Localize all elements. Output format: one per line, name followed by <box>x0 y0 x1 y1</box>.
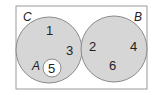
set-c-label: C <box>23 10 32 24</box>
element-1: 1 <box>46 23 53 38</box>
element-3: 3 <box>66 43 73 58</box>
element-4: 4 <box>130 39 137 54</box>
element-2: 2 <box>89 39 96 54</box>
element-6: 6 <box>109 58 116 73</box>
set-b-label: B <box>134 10 142 24</box>
set-a-label: A <box>31 59 40 73</box>
venn-diagram: C B A 1 3 5 2 4 6 <box>0 0 157 95</box>
element-5: 5 <box>48 61 55 76</box>
